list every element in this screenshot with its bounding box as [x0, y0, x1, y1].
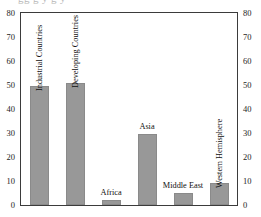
y-tick-left-80: 80 — [0, 9, 18, 18]
y-tick-right-50: 50 — [240, 81, 260, 90]
bar-label-developing-countries: Developing Countries — [71, 15, 80, 88]
bar-industrial-countries — [30, 86, 49, 205]
y-tick-left-10: 10 — [0, 177, 18, 186]
bar-middle-east — [174, 193, 193, 205]
y-tick-right-30: 30 — [240, 129, 260, 138]
y-axis-left: 80706050403020100 — [0, 12, 18, 206]
bar-label-africa: Africa — [100, 188, 121, 197]
y-tick-right-60: 60 — [240, 57, 260, 66]
y-tick-left-70: 70 — [0, 33, 18, 42]
y-tick-left-40: 40 — [0, 105, 18, 114]
bar-africa — [102, 200, 121, 205]
y-tick-right-80: 80 — [240, 9, 260, 18]
y-axis-right: 80706050403020100 — [240, 12, 260, 206]
y-tick-right-70: 70 — [240, 33, 260, 42]
bar-asia — [138, 134, 157, 205]
bar-label-industrial-countries: Industrial Countries — [35, 25, 44, 91]
bar-label-western-hemisphere: Western Hemisphere — [215, 119, 224, 188]
bars-container: Industrial CountriesDeveloping Countries… — [21, 13, 237, 205]
bar-chart: gg g y g y 80706050403020100 80706050403… — [0, 0, 261, 217]
bar-label-asia: Asia — [139, 122, 154, 131]
y-tick-right-40: 40 — [240, 105, 260, 114]
chart-title-text: gg g y g y — [18, 0, 66, 4]
bar-developing-countries — [66, 83, 85, 205]
y-tick-right-20: 20 — [240, 153, 260, 162]
y-tick-left-50: 50 — [0, 81, 18, 90]
chart-title-cropped: gg g y g y — [0, 0, 261, 7]
bar-label-middle-east: Middle East — [163, 181, 203, 190]
y-tick-left-60: 60 — [0, 57, 18, 66]
y-tick-left-30: 30 — [0, 129, 18, 138]
y-tick-right-0: 0 — [240, 201, 260, 210]
y-tick-right-10: 10 — [240, 177, 260, 186]
y-tick-left-20: 20 — [0, 153, 18, 162]
y-tick-left-0: 0 — [0, 201, 18, 210]
